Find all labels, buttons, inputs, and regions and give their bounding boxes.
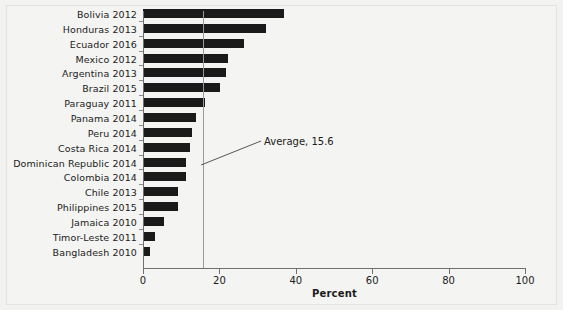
x-axis-tick-label: 0: [140, 275, 146, 286]
average-annotation-label: Average, 15.6: [264, 136, 334, 147]
y-axis-tick-label: Philippines 2015: [57, 202, 137, 213]
bar: [143, 113, 196, 122]
bar: [143, 83, 220, 92]
y-axis-tick-label: Jamaica 2010: [71, 217, 137, 228]
y-axis-tick-label: Chile 2013: [85, 187, 137, 198]
y-axis-tick-label: Honduras 2013: [63, 24, 137, 35]
y-axis-tick-label: Bolivia 2012: [77, 9, 137, 20]
bar: [143, 39, 244, 48]
y-axis-tick-label: Colombia 2014: [64, 172, 137, 183]
y-axis-tick-label: Paraguay 2011: [64, 98, 137, 109]
y-axis-tick-label: Timor-Leste 2011: [53, 232, 137, 243]
x-axis-tick: [219, 269, 220, 274]
y-axis-tick-label: Dominican Republic 2014: [13, 158, 137, 169]
bar: [143, 68, 226, 77]
x-axis-title: Percent: [143, 288, 526, 299]
x-axis-tick: [525, 269, 526, 274]
annotation-leader-line: [200, 140, 262, 166]
y-axis-tick-label: Mexico 2012: [76, 54, 137, 65]
bar: [143, 187, 178, 196]
bar: [143, 158, 186, 167]
bar: [143, 247, 150, 256]
bar: [143, 217, 164, 226]
y-axis-line: [143, 11, 144, 268]
bar: [143, 9, 284, 18]
bar: [143, 172, 186, 181]
x-axis-tick-label: 20: [213, 275, 226, 286]
x-axis-tick: [372, 269, 373, 274]
average-reference-line: [203, 11, 205, 268]
bar-chart: Bolivia 2012Honduras 2013Ecuador 2016Mex…: [0, 0, 563, 310]
bar: [143, 98, 205, 107]
y-axis-tick-label: Argentina 2013: [62, 68, 137, 79]
x-axis-line: [143, 268, 526, 269]
x-axis-tick-label: 40: [289, 275, 302, 286]
bar: [143, 24, 266, 33]
y-axis-tick-label: Ecuador 2016: [70, 39, 137, 50]
x-axis-tick: [449, 269, 450, 274]
x-axis-tick-label: 100: [515, 275, 534, 286]
x-axis-tick-label: 60: [366, 275, 379, 286]
x-axis-tick: [296, 269, 297, 274]
y-axis-tick-label: Panama 2014: [71, 113, 137, 124]
bar: [143, 232, 155, 241]
bar: [143, 143, 190, 152]
y-axis-tick-label: Bangladesh 2010: [53, 247, 137, 258]
x-axis-tick-label: 80: [442, 275, 455, 286]
chart-page: Bolivia 2012Honduras 2013Ecuador 2016Mex…: [0, 0, 563, 310]
bar: [143, 128, 192, 137]
y-axis-tick-label: Costa Rica 2014: [58, 143, 137, 154]
y-axis-tick-label: Peru 2014: [88, 128, 137, 139]
y-axis-tick-label: Brazil 2015: [82, 83, 137, 94]
bar: [143, 54, 228, 63]
y-axis-labels: Bolivia 2012Honduras 2013Ecuador 2016Mex…: [0, 0, 137, 310]
bar: [143, 202, 178, 211]
x-axis-tick: [143, 269, 144, 274]
